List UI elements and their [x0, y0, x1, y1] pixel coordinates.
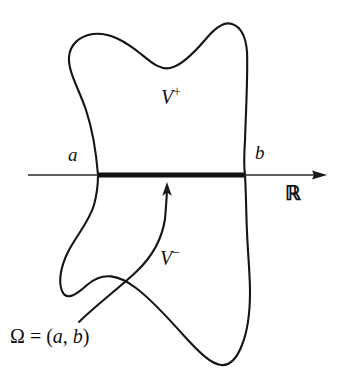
omega-equals: = (: [25, 325, 53, 347]
label-point-a: a: [68, 145, 78, 164]
omega-symbol: Ω: [10, 325, 25, 347]
omega-close-paren: ): [83, 325, 90, 347]
label-region-v-plus: V+: [161, 85, 181, 107]
axis-arrow-head: [312, 171, 327, 180]
label-v-plus-superscript: +: [173, 84, 181, 99]
label-v-minus-superscript: −: [172, 245, 180, 260]
label-real-line-symbol: ℝ: [285, 183, 301, 203]
label-v-minus-base: V: [160, 247, 172, 269]
label-point-b: b: [255, 143, 265, 162]
math-figure: a b V+ V− ℝ Ω = (a, b): [0, 0, 342, 378]
label-omega-equation: Ω = (a, b): [10, 326, 90, 346]
omega-comma: ,: [63, 325, 73, 347]
omega-endpoint-b: b: [73, 325, 83, 347]
label-v-plus-base: V: [161, 86, 173, 108]
omega-endpoint-a: a: [53, 325, 63, 347]
label-region-v-minus: V−: [160, 246, 180, 268]
